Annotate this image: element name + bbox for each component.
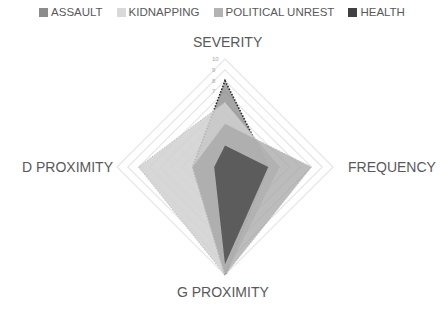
tick-label: 7 <box>212 88 216 94</box>
axis-label-frequency: FREQUENCY <box>348 159 436 175</box>
tick-label: 10 <box>212 56 219 62</box>
axis-label-severity: SEVERITY <box>193 34 262 50</box>
axis-label-d-proximity: D PROXIMITY <box>22 159 113 175</box>
tick-label: 9 <box>212 67 216 73</box>
tick-label: 8 <box>212 78 216 84</box>
axis-label-g-proximity: G PROXIMITY <box>177 284 269 300</box>
